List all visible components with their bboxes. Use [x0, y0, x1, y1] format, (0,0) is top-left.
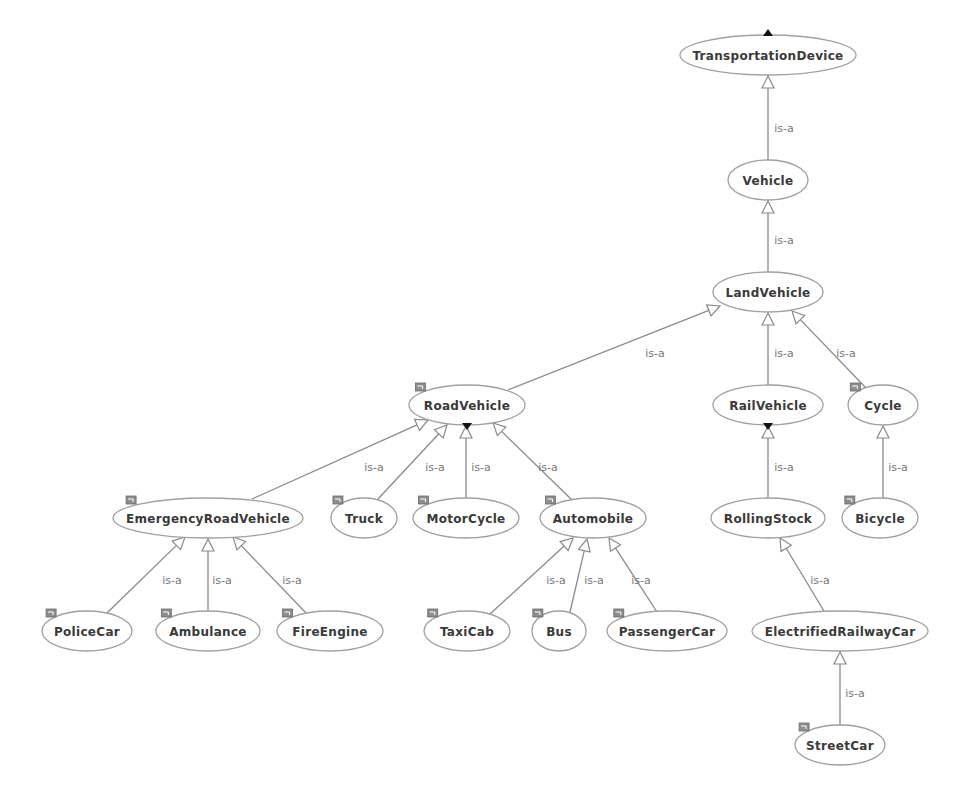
edge-label: is-a [631, 574, 651, 587]
edge-line [502, 431, 572, 500]
instance-badge-icon[interactable] [333, 496, 343, 504]
node-label: Vehicle [743, 174, 794, 188]
edge-label: is-a [774, 461, 794, 474]
ontology-diagram: is-ais-ais-ais-ais-ais-ais-ais-ais-ais-a… [0, 0, 962, 808]
arrowhead-icon [578, 539, 590, 552]
instance-badge-icon[interactable] [845, 496, 855, 504]
edge-label: is-a [162, 574, 182, 587]
node-label: PassengerCar [619, 625, 716, 639]
node-label: Automobile [553, 512, 634, 526]
edge-bicycle-to-cycle: is-a [877, 426, 908, 498]
edge-police-car-to-emergency-road-vehicle: is-a [107, 537, 185, 613]
edge-label: is-a [810, 574, 830, 587]
arrowhead-icon [762, 313, 774, 325]
node-label: Cycle [864, 399, 902, 413]
edge-vehicle-to-transportation-device: is-a [762, 76, 794, 160]
instance-badge-icon[interactable] [283, 609, 293, 617]
node-label: Bus [546, 625, 572, 639]
expand-down-icon[interactable] [763, 423, 773, 430]
expand-up-icon[interactable] [763, 29, 773, 36]
arrowhead-icon [762, 76, 774, 88]
node-ambulance[interactable]: Ambulance [156, 609, 260, 651]
node-rolling-stock[interactable]: RollingStock [711, 498, 825, 538]
node-label: TransportationDevice [692, 49, 843, 63]
node-fire-engine[interactable]: FireEngine [277, 609, 383, 651]
node-label: FireEngine [292, 625, 368, 639]
node-label: RoadVehicle [424, 399, 510, 413]
instance-badge-icon[interactable] [799, 723, 809, 731]
edge-automobile-to-road-vehicle: is-a [493, 423, 572, 500]
node-electrified-railway-car[interactable]: ElectrifiedRailwayCar [752, 611, 928, 651]
edge-land-vehicle-to-vehicle: is-a [762, 201, 794, 272]
node-street-car[interactable]: StreetCar [795, 723, 885, 765]
edge-line [570, 551, 584, 612]
arrowhead-icon [202, 539, 214, 551]
edge-fire-engine-to-emergency-road-vehicle: is-a [233, 537, 306, 613]
instance-badge-icon[interactable] [850, 383, 860, 391]
node-truck[interactable]: Truck [331, 496, 397, 538]
instance-badge-icon[interactable] [419, 496, 429, 504]
node-rail-vehicle[interactable]: RailVehicle [713, 385, 823, 430]
node-vehicle[interactable]: Vehicle [728, 160, 808, 200]
edge-motor-cycle-to-road-vehicle: is-a [460, 426, 491, 498]
arrowhead-icon [780, 538, 791, 551]
node-police-car[interactable]: PoliceCar [42, 609, 132, 651]
node-taxi-cab[interactable]: TaxiCab [424, 609, 510, 651]
instance-badge-icon[interactable] [533, 609, 543, 617]
node-label: StreetCar [806, 739, 874, 753]
node-label: TaxiCab [440, 625, 494, 639]
edge-label: is-a [425, 461, 445, 474]
edge-line [800, 320, 866, 388]
node-label: LandVehicle [726, 286, 811, 300]
instance-badge-icon[interactable] [415, 383, 425, 391]
edge-ambulance-to-emergency-road-vehicle: is-a [202, 539, 232, 611]
edge-label: is-a [471, 461, 491, 474]
node-label: ElectrifiedRailwayCar [765, 625, 916, 639]
instance-badge-icon[interactable] [546, 496, 556, 504]
arrowhead-icon [834, 652, 846, 664]
instance-badge-icon[interactable] [161, 609, 171, 617]
node-motor-cycle[interactable]: MotorCycle [413, 496, 519, 538]
edge-label: is-a [774, 234, 794, 247]
edge-bus-to-automobile: is-a [570, 539, 604, 612]
instance-badge-icon[interactable] [614, 609, 624, 617]
edge-passenger-car-to-automobile: is-a [609, 538, 657, 612]
node-cycle[interactable]: Cycle [848, 383, 918, 425]
instance-badge-icon[interactable] [126, 496, 136, 504]
expand-down-icon[interactable] [462, 423, 472, 430]
edge-line [508, 310, 709, 390]
instance-badge-icon[interactable] [428, 609, 438, 617]
edge-label: is-a [546, 574, 566, 587]
edge-taxi-cab-to-automobile: is-a [490, 538, 573, 614]
arrowhead-icon [415, 419, 428, 430]
node-passenger-car[interactable]: PassengerCar [607, 609, 727, 651]
edge-emergency-road-vehicle-to-road-vehicle: is-a [252, 419, 428, 499]
node-bicycle[interactable]: Bicycle [842, 496, 918, 538]
edge-label: is-a [774, 122, 794, 135]
node-label: RollingStock [724, 512, 813, 526]
node-emergency-road-vehicle[interactable]: EmergencyRoadVehicle [113, 496, 303, 538]
edge-label: is-a [538, 461, 558, 474]
node-automobile[interactable]: Automobile [540, 496, 646, 538]
node-road-vehicle[interactable]: RoadVehicle [409, 383, 525, 430]
instance-badge-icon[interactable] [46, 609, 56, 617]
edge-label: is-a [282, 574, 302, 587]
edge-cycle-to-land-vehicle: is-a [792, 311, 866, 388]
node-transportation-device[interactable]: TransportationDevice [680, 29, 856, 75]
node-label: MotorCycle [426, 512, 505, 526]
nodes-layer: TransportationDeviceVehicleLandVehicleRo… [42, 29, 928, 765]
arrowhead-icon [707, 305, 720, 316]
arrowhead-icon [609, 538, 621, 551]
edge-rolling-stock-to-rail-vehicle: is-a [762, 426, 794, 498]
edge-label: is-a [845, 687, 865, 700]
edge-label: is-a [212, 574, 232, 587]
node-label: PoliceCar [54, 625, 120, 639]
diagram-canvas: is-ais-ais-ais-ais-ais-ais-ais-ais-ais-a… [0, 0, 962, 808]
edge-line [252, 425, 417, 499]
edge-label: is-a [774, 347, 794, 360]
edge-label: is-a [645, 347, 665, 360]
node-bus[interactable]: Bus [532, 609, 586, 651]
node-land-vehicle[interactable]: LandVehicle [713, 272, 823, 312]
edge-label: is-a [836, 347, 856, 360]
edge-label: is-a [584, 574, 604, 587]
